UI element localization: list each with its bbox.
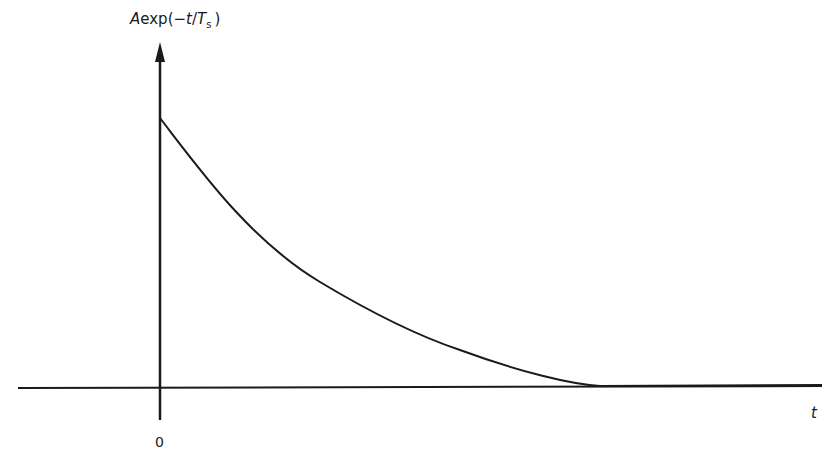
origin-label: 0 bbox=[155, 434, 164, 450]
y-axis-label: Aexp(−t/Ts) bbox=[129, 10, 220, 30]
y-axis-arrow-icon bbox=[155, 42, 165, 62]
exponential-decay-chart: Aexp(−t/Ts) 0 t bbox=[0, 0, 839, 465]
x-axis-label: t bbox=[811, 404, 818, 422]
decay-curve bbox=[160, 118, 822, 386]
